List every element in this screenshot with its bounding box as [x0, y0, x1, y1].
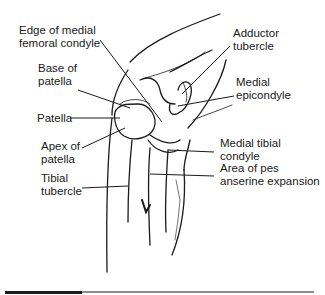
- label-apex-of-patella: Apex of patella: [41, 140, 80, 165]
- label-base-of-patella: Base of patella: [38, 62, 77, 87]
- thick-rule: [5, 291, 82, 294]
- knee-anatomy-figure: Edge of medial femoral condyle Adductor …: [0, 0, 325, 295]
- label-medial-epicondyle: Medial epicondyle: [236, 76, 291, 101]
- label-medial-tibial-condyle: Medial tibial condyle: [220, 137, 281, 162]
- label-patella: Patella: [37, 112, 72, 125]
- label-adductor-tubercle: Adductor tubercle: [233, 27, 279, 52]
- label-pes-anserine: Area of pes anserine expansion: [220, 162, 320, 187]
- label-edge-medial-femoral-condyle: Edge of medial femoral condyle: [19, 24, 100, 49]
- label-tibial-tubercle: Tibial tubercle: [41, 172, 82, 197]
